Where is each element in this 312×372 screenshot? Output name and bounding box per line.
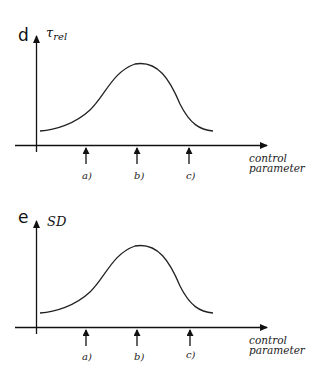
bell-curve: [40, 245, 213, 313]
figure: d τrel a) b) c) control parameter e SD a…: [0, 0, 312, 372]
marker-label-b: b): [134, 351, 144, 362]
panel-letter: d: [18, 25, 29, 45]
panel-d: d τrel a) b) c) control parameter: [15, 25, 306, 181]
marker-label-c: c): [186, 349, 196, 360]
x-axis-label-line2: parameter: [249, 162, 306, 174]
marker-label-a: a): [82, 170, 92, 181]
panel-letter: e: [18, 207, 28, 227]
marker-label-b: b): [134, 170, 144, 181]
y-axis-label-sub: rel: [53, 31, 67, 42]
y-axis-label-main: SD: [47, 214, 67, 229]
panel-e: e SD a) b) c) control parameter: [15, 207, 306, 362]
marker-label-a: a): [82, 351, 92, 362]
y-axis-label: SD: [47, 214, 67, 229]
y-axis-label: τrel: [46, 25, 67, 42]
bell-curve: [40, 63, 213, 131]
marker-label-c: c): [186, 170, 196, 181]
x-axis-label-line2: parameter: [249, 344, 306, 356]
